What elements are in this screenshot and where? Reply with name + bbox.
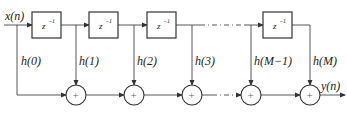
svg-text:−1: −1 [105,18,112,24]
delay-box-2: z −1 [89,12,118,38]
adder-5: + [300,85,320,105]
svg-text:z: z [156,21,161,31]
coef-h3: h(3) [195,54,215,68]
coef-hM: h(M) [313,54,337,68]
delay-box-1: z −1 [32,12,61,38]
svg-text:z: z [98,21,103,31]
plus-icon: + [248,89,254,101]
coef-h1: h(1) [79,54,99,68]
plus-icon: + [307,89,313,101]
adder-1: + [66,85,86,105]
plus-icon: + [73,89,79,101]
delay-box-3: z −1 [147,12,176,38]
svg-text:−1: −1 [163,18,170,24]
plus-icon: + [189,89,195,101]
delay-label: z [41,21,46,31]
coef-h0: h(0) [21,54,41,68]
fir-filter-diagram: x(n) z −1 z −1 z −1 z −1 [0,0,347,119]
adder-2: + [124,85,144,105]
svg-text:−1: −1 [279,18,286,24]
coef-hM-1: h(M−1) [254,54,292,68]
plus-icon: + [131,89,137,101]
coef-h2: h(2) [137,54,157,68]
adder-3: + [182,85,202,105]
delay-box-4: z −1 [263,12,292,38]
output-label: y(n) [320,79,340,93]
input-label: x(n) [4,9,24,23]
adder-4: + [241,85,261,105]
svg-text:z: z [272,21,277,31]
svg-text:−1: −1 [48,18,55,24]
